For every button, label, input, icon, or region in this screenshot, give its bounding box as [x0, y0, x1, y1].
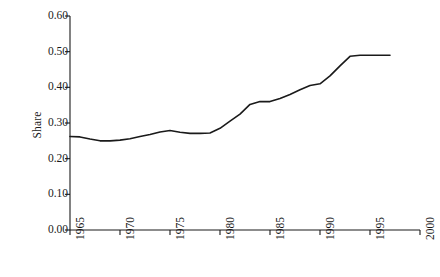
y-tick-marks: [65, 16, 70, 230]
plot-area: [0, 0, 440, 277]
x-tick-marks: [70, 230, 420, 235]
axis-lines: [70, 16, 420, 230]
data-series-line: [70, 55, 390, 141]
line-chart: Share 0.000.100.200.300.400.500.60 19651…: [0, 0, 440, 277]
